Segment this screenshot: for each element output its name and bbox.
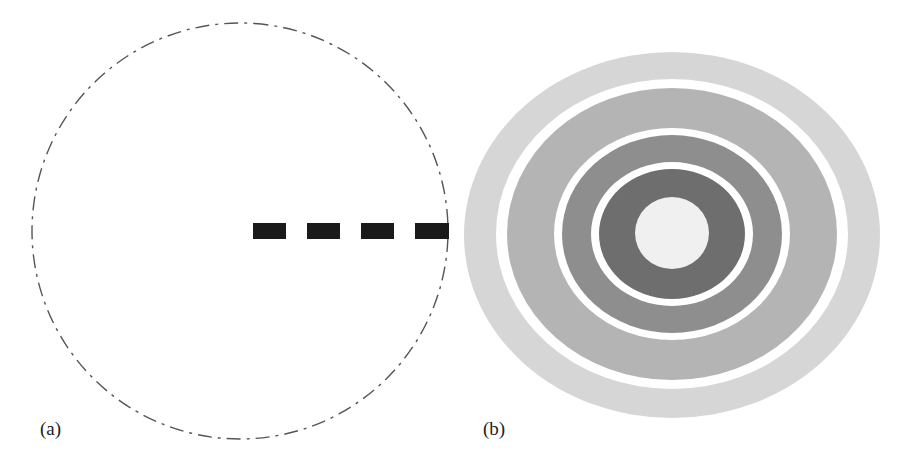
panel-b-label: (b) xyxy=(483,418,505,440)
thick-dashed-radius xyxy=(253,223,449,239)
center-disk xyxy=(635,197,709,269)
panel-b: (b) xyxy=(460,0,906,466)
panel-a: (a) xyxy=(0,0,460,466)
dashed-circle-diagram xyxy=(0,0,460,466)
concentric-rings-diagram xyxy=(460,0,906,466)
panel-a-label: (a) xyxy=(40,418,61,440)
